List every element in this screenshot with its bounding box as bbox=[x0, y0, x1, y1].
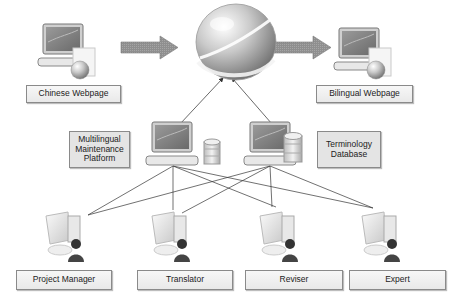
bilingual-webpage-label: Bilingual Webpage bbox=[316, 85, 413, 103]
block-arrow-to-bilingual bbox=[270, 36, 331, 59]
user-workstation-icon-reviser bbox=[260, 212, 298, 262]
target-computer-icon bbox=[334, 28, 391, 79]
translator-label: Translator bbox=[137, 270, 233, 290]
database-icon bbox=[284, 133, 302, 163]
block-arrow-to-internet bbox=[121, 36, 178, 59]
platform-server-icon bbox=[146, 122, 220, 165]
database-icon bbox=[204, 139, 220, 164]
project-manager-label: Project Manager bbox=[16, 270, 112, 290]
user-workstation-icon-translator bbox=[152, 212, 190, 262]
expert-label: Expert bbox=[349, 270, 446, 290]
chinese-webpage-label: Chinese Webpage bbox=[26, 85, 121, 103]
multilingual-platform-label: Multilingual Maintenance Platform bbox=[69, 131, 130, 168]
user-workstation-icon-project-manager bbox=[46, 212, 84, 262]
globe-icon bbox=[196, 4, 276, 80]
user-workstation-icon-expert bbox=[362, 212, 400, 262]
reviser-label: Reviser bbox=[245, 270, 343, 290]
termbase-server-icon bbox=[244, 122, 302, 165]
source-computer-icon bbox=[38, 24, 95, 79]
terminology-database-label: Terminology Database bbox=[317, 131, 381, 168]
mesh-lines bbox=[88, 166, 373, 215]
